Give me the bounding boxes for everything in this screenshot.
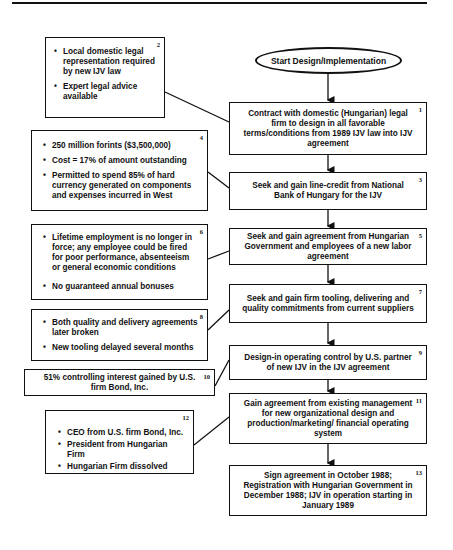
step-text: Seek and gain firm tooling, delivering a…	[242, 294, 414, 314]
step-box-5: Seek and gain agreement from Hungarian G…	[229, 228, 427, 265]
step-number: 13	[416, 468, 423, 478]
note-number: 8	[200, 312, 203, 322]
step-box-11: Gain agreement from existing management …	[229, 393, 427, 444]
step-text: Sign agreement in October 1988; Registra…	[242, 471, 414, 511]
step-number: 1	[419, 105, 422, 115]
step-number: 5	[419, 231, 422, 241]
step-text: Seek and gain agreement from Hungarian G…	[242, 232, 414, 262]
note-bullet: 250 million forints ($3,500,000)	[43, 141, 199, 151]
note-bullets: Both quality and delivery agreements lat…	[43, 318, 199, 353]
note-bullet: CEO from U.S. firm Bond, Inc.	[58, 428, 187, 438]
step-number: 9	[419, 348, 422, 358]
step-box-13: Sign agreement in October 1988; Registra…	[229, 465, 427, 516]
step-number: 11	[416, 396, 422, 406]
note-box-12: 12 CEO from U.S. firm Bond, Inc. Preside…	[45, 410, 194, 474]
step-box-7: Seek and gain firm tooling, delivering a…	[229, 284, 427, 323]
note-bullet: Both quality and delivery agreements lat…	[43, 318, 199, 338]
note-bullets: CEO from U.S. firm Bond, Inc. President …	[58, 428, 187, 472]
note-number: 4	[200, 133, 203, 143]
note-bullet: President from Hungarian Firm	[58, 440, 187, 460]
note-bullet: Expert legal advice available	[54, 82, 158, 102]
step-text: Gain agreement from existing management …	[242, 399, 414, 439]
note-text: 51% controlling interest gained by U.S. …	[37, 373, 202, 393]
step-number: 7	[419, 287, 422, 297]
note-bullet: Permitted to spend 85% of hard currency …	[43, 171, 199, 201]
start-oval: Start Design/Implementation	[255, 47, 402, 74]
note-bullets: Lifetime employment is no longer in forc…	[43, 233, 199, 292]
note-bullet: New tooling delayed several months	[43, 343, 199, 353]
step-text: Seek and gain line-credit from National …	[242, 181, 414, 201]
note-number: 12	[183, 413, 190, 423]
step-box-9: Design-in operating control by U.S. part…	[229, 345, 427, 380]
step-box-1: Contract with domestic (Hungarian) legal…	[229, 102, 427, 155]
note-box-2: 2 Local domestic legal representation re…	[45, 37, 165, 118]
note-box-10: 51% controlling interest gained by U.S. …	[24, 369, 215, 396]
note-box-6: 6 Lifetime employment is no longer in fo…	[31, 224, 208, 300]
note-box-4: 4 250 million forints ($3,500,000) Cost …	[31, 130, 208, 211]
step-box-3: Seek and gain line-credit from National …	[229, 172, 427, 210]
note-number: 6	[200, 227, 203, 237]
note-bullets: Local domestic legal representation requ…	[54, 47, 158, 102]
step-text: Contract with domestic (Hungarian) legal…	[242, 109, 414, 149]
note-bullet: Hungarian Firm dissolved	[58, 462, 187, 472]
note-number: 10	[204, 372, 211, 382]
note-bullet: Cost = 17% of amount outstanding	[43, 156, 199, 166]
step-number: 3	[419, 175, 422, 185]
note-box-8: 8 Both quality and delivery agreements l…	[31, 309, 208, 361]
note-bullet: Local domestic legal representation requ…	[54, 47, 158, 77]
note-bullet: Lifetime employment is no longer in forc…	[43, 233, 199, 273]
note-bullet: No guaranteed annual bonuses	[43, 282, 199, 292]
start-label: Start Design/Implementation	[271, 56, 386, 66]
step-text: Design-in operating control by U.S. part…	[242, 353, 414, 373]
note-bullets: 250 million forints ($3,500,000) Cost = …	[43, 141, 199, 201]
